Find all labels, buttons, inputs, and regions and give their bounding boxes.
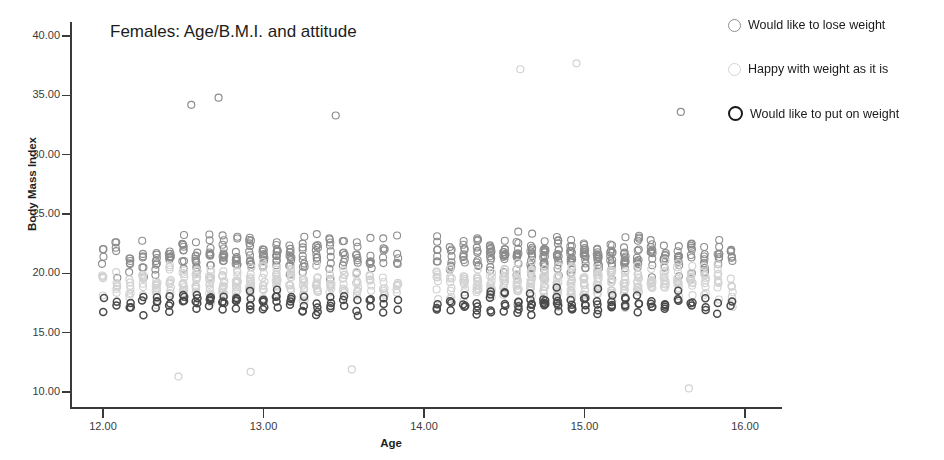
legend-label: Would like to lose weight xyxy=(748,18,885,32)
legend-label: Would like to put on weight xyxy=(750,107,899,121)
open-circle-icon xyxy=(728,106,743,121)
chart-page: Females: Age/B.M.I. and attitude Body Ma… xyxy=(0,0,944,460)
open-circle-icon xyxy=(728,63,741,76)
open-circle-icon xyxy=(728,19,741,32)
legend-item-put-on-weight[interactable]: Would like to put on weight xyxy=(728,106,940,121)
legend: Would like to lose weight Happy with wei… xyxy=(728,18,940,151)
legend-item-lose-weight[interactable]: Would like to lose weight xyxy=(728,18,940,32)
legend-label: Happy with weight as it is xyxy=(748,62,888,76)
legend-item-happy-with-weight[interactable]: Happy with weight as it is xyxy=(728,62,940,76)
